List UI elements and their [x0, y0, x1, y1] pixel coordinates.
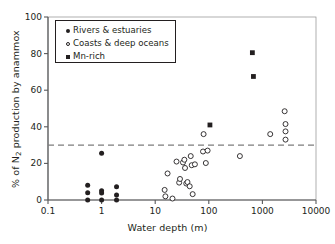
- y-axis-title-sub: 2: [14, 151, 23, 156]
- x-axis-title: Water depth (m): [0, 222, 335, 233]
- y-tick-label: 20: [12, 158, 42, 168]
- x-tick-label: 0.1: [41, 206, 55, 216]
- x-tick-label: 10: [149, 206, 160, 216]
- legend-box: Rivers & estuariesCoasts & deep oceansMn…: [55, 20, 176, 63]
- data-point: [99, 191, 104, 196]
- data-point: [163, 194, 168, 199]
- data-point: [85, 198, 90, 203]
- x-tick-label: 1: [99, 206, 105, 216]
- data-point: [182, 157, 187, 162]
- open-circle-icon: [66, 42, 70, 46]
- data-point: [192, 162, 197, 167]
- data-point: [251, 74, 256, 79]
- data-point: [114, 184, 119, 189]
- legend-item: Rivers & estuaries: [62, 24, 175, 37]
- data-point: [282, 109, 287, 114]
- data-point: [99, 198, 104, 203]
- data-point: [165, 171, 170, 176]
- y-tick-label: 80: [12, 49, 42, 59]
- y-tick-label: 0: [12, 195, 42, 205]
- data-point: [268, 132, 273, 137]
- x-tick-label: 10000: [302, 206, 331, 216]
- y-tick-label: 40: [12, 122, 42, 132]
- data-point: [283, 129, 288, 134]
- data-point: [201, 132, 206, 137]
- y-tick-label: 60: [12, 85, 42, 95]
- legend-marker: [62, 29, 73, 33]
- y-tick-label: 100: [12, 12, 42, 22]
- data-point: [85, 190, 90, 195]
- data-point: [250, 50, 255, 55]
- data-point: [177, 176, 182, 181]
- filled-circle-icon: [66, 29, 70, 33]
- data-point: [237, 154, 242, 159]
- data-point: [188, 154, 193, 159]
- data-point: [183, 165, 188, 170]
- legend-label: Coasts & deep oceans: [73, 39, 169, 48]
- data-point: [162, 187, 167, 192]
- x-tick-label: 1000: [251, 206, 274, 216]
- legend-label: Mn-rich: [73, 52, 105, 61]
- legend-item: Mn-rich: [62, 50, 175, 63]
- data-points-layer: [85, 50, 288, 202]
- data-point: [205, 148, 210, 153]
- data-point: [283, 122, 288, 127]
- data-point: [114, 198, 119, 203]
- legend-item: Coasts & deep oceans: [62, 37, 175, 50]
- data-point: [203, 161, 208, 166]
- data-point: [114, 192, 119, 197]
- data-point: [283, 137, 288, 142]
- x-tick-label: 100: [200, 206, 217, 216]
- data-point: [190, 192, 195, 197]
- data-point: [187, 184, 192, 189]
- figure-container: % of N2 production by anammox Water dept…: [0, 0, 335, 244]
- legend-label: Rivers & estuaries: [73, 26, 151, 35]
- data-point: [170, 196, 175, 201]
- data-point: [174, 159, 179, 164]
- data-point: [85, 183, 90, 188]
- data-point: [99, 151, 104, 156]
- legend-marker: [62, 42, 73, 46]
- filled-square-icon: [66, 55, 70, 59]
- data-point: [201, 149, 206, 154]
- legend-marker: [62, 55, 73, 59]
- data-point: [208, 123, 213, 128]
